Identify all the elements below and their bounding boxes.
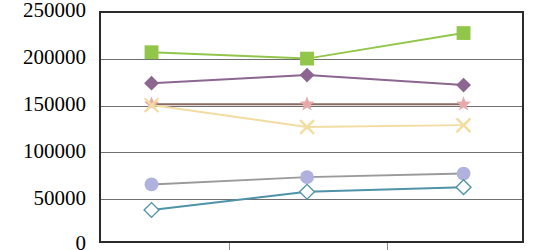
y-axis-tick-label: 150000 xyxy=(0,94,86,115)
data-point-marker xyxy=(456,180,471,195)
y-axis-tick-label: 0 xyxy=(0,233,86,250)
x-axis xyxy=(99,243,524,250)
line-chart: 250000 200000 150000 100000 50000 0 xyxy=(0,0,533,250)
data-point-marker xyxy=(300,96,315,110)
data-point-marker xyxy=(300,68,315,83)
y-axis-tick-label: 50000 xyxy=(0,188,86,209)
series-line xyxy=(152,105,464,127)
data-point-marker xyxy=(456,96,471,110)
series-pink-star-series xyxy=(144,96,471,110)
data-point-marker xyxy=(457,167,471,181)
x-axis-separator xyxy=(229,243,230,250)
data-point-marker xyxy=(145,178,159,192)
data-point-marker xyxy=(457,26,471,40)
series-green-square-series xyxy=(145,26,471,65)
data-point-marker xyxy=(144,203,159,218)
y-axis-tick-label: 250000 xyxy=(0,0,86,21)
series-purple-diamond-series xyxy=(144,68,471,93)
y-axis-tick-label: 200000 xyxy=(0,47,86,68)
series-teal-open-diamond-series xyxy=(144,180,471,218)
data-point-marker xyxy=(300,170,314,184)
series-layer xyxy=(101,13,522,241)
y-axis-tick-label: 100000 xyxy=(0,141,86,162)
data-point-marker xyxy=(300,184,315,199)
data-point-marker xyxy=(300,52,314,66)
x-axis-separator xyxy=(387,243,388,250)
data-point-marker xyxy=(456,78,471,93)
data-point-marker xyxy=(145,45,159,59)
plot-area xyxy=(99,11,524,243)
data-point-marker xyxy=(144,76,159,91)
